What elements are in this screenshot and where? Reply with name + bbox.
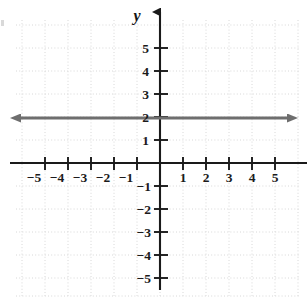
y-axis-label: y (131, 7, 141, 25)
x-tick-label: 3 (226, 170, 233, 185)
x-tick-label: 5 (272, 170, 279, 185)
x-tick-label: −3 (73, 170, 88, 185)
y-tick-label: 1 (142, 133, 149, 148)
y-tick-label: −2 (137, 202, 152, 217)
y-tick-label: 5 (142, 41, 149, 56)
y-tick-label: 3 (142, 87, 149, 102)
y-tick-label: −1 (137, 179, 152, 194)
y-tick-label: −3 (137, 225, 152, 240)
x-tick-label: 2 (203, 170, 210, 185)
scan-artifact (1, 20, 4, 26)
x-tick-label: 4 (249, 170, 256, 185)
y-tick-label: −5 (137, 271, 152, 286)
y-tick-label: −4 (137, 248, 152, 263)
y-tick-label: 2 (142, 110, 149, 125)
y-tick-label: 4 (142, 64, 149, 79)
x-tick-label: −2 (96, 170, 111, 185)
coordinate-plane-figure: y −5 −4 −3 −2 −1 1 2 3 4 5 5 4 3 2 1 −1 … (0, 0, 308, 303)
axes (10, 12, 307, 290)
x-tick-label: −1 (119, 170, 134, 185)
x-tick-label: 1 (180, 170, 187, 185)
x-tick-label: −5 (27, 170, 42, 185)
graph-canvas: y −5 −4 −3 −2 −1 1 2 3 4 5 5 4 3 2 1 −1 … (0, 0, 308, 303)
x-tick-label: −4 (50, 170, 65, 185)
